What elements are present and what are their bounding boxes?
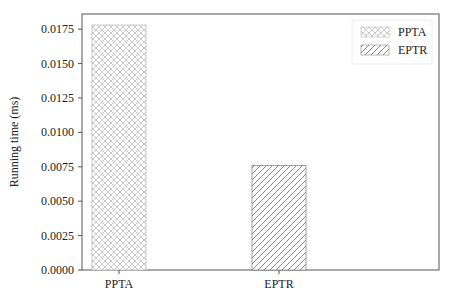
bar-eptr [252, 165, 306, 270]
legend-label-eptr: EPTR [398, 43, 427, 57]
y-tick-label: 0.0150 [41, 57, 74, 71]
y-tick-label: 0.0000 [41, 263, 74, 277]
y-tick-label: 0.0100 [41, 125, 74, 139]
y-tick-label: 0.0050 [41, 194, 74, 208]
y-tick-label: 0.0075 [41, 160, 74, 174]
bar-ppta [92, 25, 146, 270]
legend-swatch-eptr [361, 45, 389, 55]
y-tick-label: 0.0025 [41, 229, 74, 243]
y-tick-label: 0.0125 [41, 91, 74, 105]
y-tick-label: 0.0175 [41, 22, 74, 36]
x-tick-label: EPTR [264, 277, 293, 291]
bar-chart: 0.00000.00250.00500.00750.01000.01250.01… [0, 0, 458, 301]
legend-label-ppta: PPTA [398, 25, 427, 39]
y-axis-title: Running time (ms) [7, 97, 21, 188]
x-tick-label: PPTA [105, 277, 134, 291]
x-axis: PPTAEPTR [105, 270, 294, 291]
legend: PPTA EPTR [352, 20, 432, 64]
y-axis: 0.00000.00250.00500.00750.01000.01250.01… [41, 22, 82, 277]
legend-swatch-ppta [361, 27, 389, 37]
